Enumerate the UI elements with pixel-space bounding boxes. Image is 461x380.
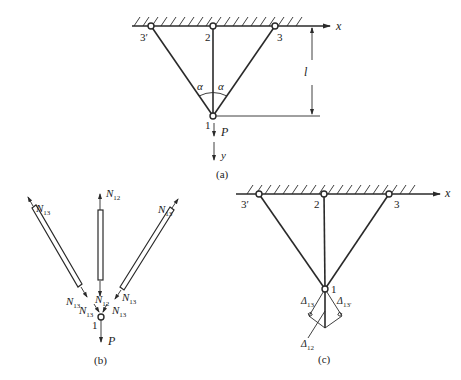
bar-13p	[151, 26, 213, 116]
force-label-node-right: N13	[111, 304, 127, 319]
figure-a: x α α l 3′ 2 3 1 P y (a)	[132, 17, 342, 181]
y-axis-label: y	[220, 149, 226, 161]
node-3p-c	[256, 191, 262, 197]
angle-right-label: α	[218, 80, 224, 92]
angle-left-label: α	[197, 80, 203, 92]
delta-12-leader	[308, 311, 325, 338]
force-arrow-right-top	[172, 199, 178, 208]
force-label-right-bottom: N13	[121, 291, 137, 306]
node-3p-label: 3′	[140, 31, 148, 43]
node-3p-label-c: 3′	[241, 198, 249, 210]
node-3p	[148, 23, 154, 29]
perp-left	[309, 316, 325, 328]
node-1	[210, 113, 216, 119]
node-3-c	[386, 191, 392, 197]
node-2-label-c: 2	[314, 198, 320, 210]
delta-13-label: Δ13	[300, 295, 314, 309]
load-label-b: P	[107, 334, 116, 348]
node-2-label: 2	[205, 31, 211, 43]
force-label-node-left: N13	[78, 304, 94, 319]
node-3-label: 3	[277, 31, 283, 43]
node-2	[210, 23, 216, 29]
perp-right	[325, 316, 342, 328]
x-axis-label-c: x	[444, 186, 451, 200]
bar-13-c	[325, 194, 389, 289]
node-3	[272, 23, 278, 29]
bar-13	[213, 26, 275, 116]
caption-a: (a)	[216, 168, 229, 181]
node-3-label-c: 3	[394, 198, 400, 210]
bar-13p-free-body	[32, 205, 82, 287]
force-arrow-left-top	[28, 197, 33, 206]
bar-12-free-body	[98, 210, 103, 280]
node-1-free-body	[98, 314, 104, 320]
length-label: l	[304, 65, 308, 79]
force-arrow-node-left	[94, 304, 99, 312]
truss-diagram: x α α l 3′ 2 3 1 P y (a)	[0, 0, 461, 380]
figure-b: N13 N12 N13 N13 N12 N13 N13 N13 1 P (b)	[28, 187, 178, 367]
node-1-label-c: 1	[331, 283, 337, 295]
force-arrow-left-bottom	[81, 287, 87, 297]
caption-b: (b)	[94, 354, 107, 367]
load-label: P	[220, 125, 229, 139]
force-label-right-top: N13	[157, 203, 173, 218]
force-arrow-right-bottom	[115, 290, 121, 299]
delta-13p-label: Δ13′	[336, 295, 352, 309]
node-2-c	[321, 191, 327, 197]
force-label-mid-top: N12	[105, 187, 121, 202]
right-angle-right	[338, 312, 342, 316]
node-1-label: 1	[205, 119, 211, 131]
bar-12-c	[324, 194, 325, 289]
force-label-mid-bottom: N12	[94, 293, 110, 308]
delta-12-label: Δ12	[300, 338, 314, 352]
bar-13-free-body	[120, 207, 174, 290]
node-1-c	[322, 286, 328, 292]
figure-c: x 3′ 2 3 1 Δ13 Δ13′ Δ12 (c)	[236, 185, 451, 366]
caption-c: (c)	[318, 353, 331, 366]
node-1-label-b: 1	[92, 319, 98, 331]
x-axis-label: x	[335, 19, 342, 33]
